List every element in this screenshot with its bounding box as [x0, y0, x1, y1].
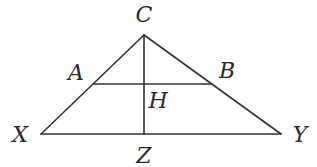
label-x: X	[10, 122, 29, 147]
label-y: Y	[293, 122, 310, 147]
label-a: A	[66, 60, 84, 85]
label-b: B	[218, 58, 235, 83]
label-c: C	[136, 2, 153, 27]
label-z: Z	[135, 143, 152, 167]
label-h: H	[147, 88, 168, 113]
triangle-diagram: C X Y Z A B H	[0, 0, 317, 167]
